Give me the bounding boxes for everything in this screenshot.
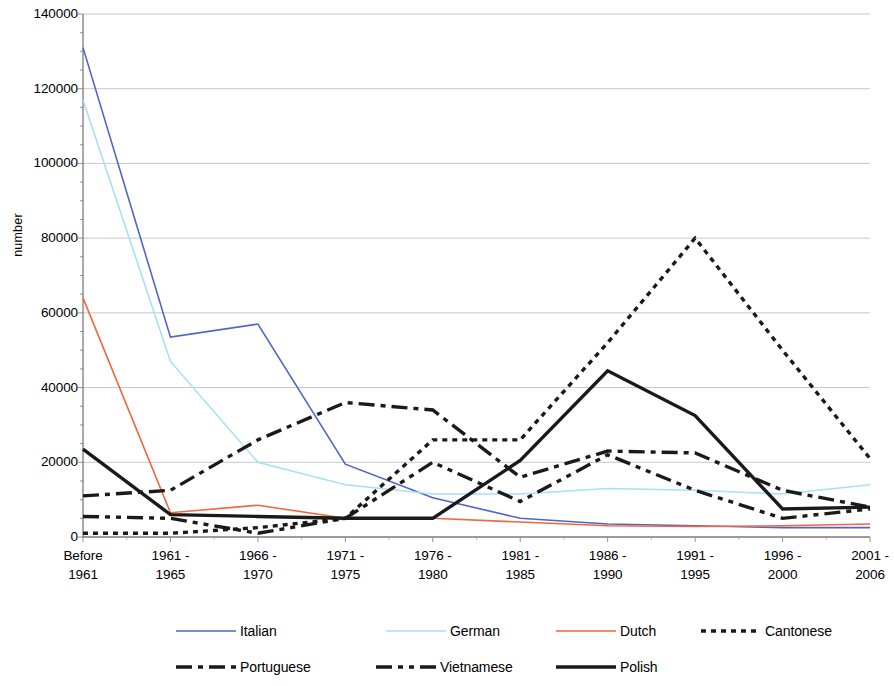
- x-tick-label: 1966 -1970: [213, 546, 303, 584]
- x-tick-label: 1971 -1975: [300, 546, 390, 584]
- x-tick-label-line: 1975: [300, 565, 390, 584]
- legend-item-italian[interactable]: Italian: [175, 620, 277, 642]
- series-line-german: [83, 100, 870, 494]
- x-tick-label: Before1961: [38, 546, 128, 584]
- plot-area: [0, 0, 884, 560]
- x-tick-label-line: 1970: [213, 565, 303, 584]
- x-tick-label: 1986 -1990: [563, 546, 653, 584]
- x-tick-label-line: 1976 -: [388, 546, 478, 565]
- x-tick-label: 1991 -1995: [650, 546, 740, 584]
- legend-item-german[interactable]: German: [385, 620, 500, 642]
- legend-label: Italian: [240, 623, 277, 639]
- x-tick-label-line: 1981 -: [475, 546, 565, 565]
- chart-legend: ItalianGermanDutchCantonesePortugueseVie…: [0, 612, 884, 686]
- x-tick-label-line: 1961: [38, 565, 128, 584]
- x-tick-label-line: 1996 -: [738, 546, 828, 565]
- x-tick-label-line: 2006: [825, 565, 894, 584]
- legend-label: Polish: [620, 659, 658, 675]
- series-line-italian: [83, 48, 870, 528]
- x-tick-label: 1976 -1980: [388, 546, 478, 584]
- legend-label: German: [450, 623, 500, 639]
- legend-item-dutch[interactable]: Dutch: [555, 620, 656, 642]
- legend-label: Portuguese: [240, 659, 311, 675]
- x-tick-label-line: 1971 -: [300, 546, 390, 565]
- legend-label: Dutch: [620, 623, 656, 639]
- legend-swatch-polish: [555, 660, 617, 674]
- legend-swatch-dutch: [555, 624, 617, 638]
- legend-swatch-cantonese: [700, 624, 762, 638]
- legend-label: Cantonese: [765, 623, 832, 639]
- x-tick-label-line: 1961 -: [125, 546, 215, 565]
- legend-item-cantonese[interactable]: Cantonese: [700, 620, 832, 642]
- x-tick-label-line: 2000: [738, 565, 828, 584]
- x-tick-label-line: Before: [38, 546, 128, 565]
- x-tick-label-line: 1995: [650, 565, 740, 584]
- x-tick-label-line: 1991 -: [650, 546, 740, 565]
- x-tick-label-line: 1986 -: [563, 546, 653, 565]
- legend-item-portuguese[interactable]: Portuguese: [175, 656, 311, 678]
- legend-item-vietnamese[interactable]: Vietnamese: [375, 656, 513, 678]
- x-tick-label-line: 1965: [125, 565, 215, 584]
- x-tick-label-line: 1966 -: [213, 546, 303, 565]
- legend-swatch-vietnamese: [375, 660, 437, 674]
- x-tick-label: 1981 -1985: [475, 546, 565, 584]
- x-tick-label-line: 1985: [475, 565, 565, 584]
- legend-label: Vietnamese: [440, 659, 513, 675]
- x-tick-label-line: 2001 -: [825, 546, 894, 565]
- x-tick-label-line: 1980: [388, 565, 478, 584]
- legend-swatch-portuguese: [175, 660, 237, 674]
- series-line-polish: [83, 371, 870, 519]
- legend-item-polish[interactable]: Polish: [555, 656, 658, 678]
- legend-swatch-german: [385, 624, 447, 638]
- x-tick-label: 2001 -2006: [825, 546, 894, 584]
- x-tick-label-line: 1990: [563, 565, 653, 584]
- legend-swatch-italian: [175, 624, 237, 638]
- x-tick-label: 1961 -1965: [125, 546, 215, 584]
- series-line-portuguese: [83, 403, 870, 508]
- x-tick-label: 1996 -2000: [738, 546, 828, 584]
